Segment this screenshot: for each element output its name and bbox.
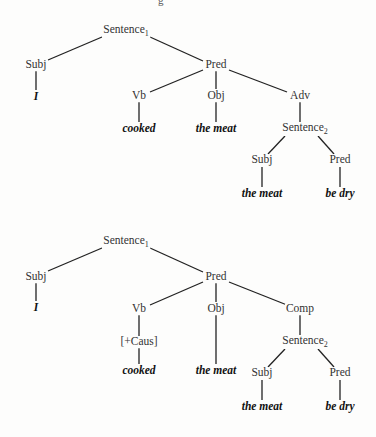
node-label: cooked	[122, 122, 155, 134]
tree-2-node-pred: Pred	[204, 271, 227, 283]
tree-1-node-pred2: Pred	[328, 154, 351, 166]
node-label: Obj	[207, 302, 224, 314]
node-label: Vb	[132, 302, 146, 314]
node-subscript: 1	[145, 29, 149, 38]
tree-1-node-meat1: the meat	[195, 123, 238, 135]
tree-1-node-i: I	[33, 91, 39, 103]
tree-2-node-bedry: be dry	[324, 401, 355, 413]
node-label: the meat	[242, 400, 283, 412]
tree-2-node-s2: Sentence2	[281, 335, 329, 349]
node-label: the meat	[242, 187, 283, 199]
tree-1-node-obj: Obj	[206, 90, 225, 102]
node-label: Subj	[25, 270, 46, 282]
tree-1-node-adv: Adv	[289, 90, 311, 102]
syntax-tree-figure: g Sentence1SubjIPredVbObjAdvcookedthe me…	[0, 0, 376, 437]
node-label: Sentence	[282, 121, 324, 133]
tree-1-node-s1: Sentence1	[102, 24, 150, 38]
tree-2-node-cooked: cooked	[121, 365, 156, 377]
node-label: Pred	[329, 153, 350, 165]
tree-2-node-subj2: Subj	[250, 367, 273, 379]
tree-2-node-subj: Subj	[24, 271, 47, 283]
tree-1-node-subj: Subj	[24, 59, 47, 71]
node-label: the meat	[196, 122, 237, 134]
tree-1-node-subj2: Subj	[250, 154, 273, 166]
node-label: Pred	[205, 270, 226, 282]
tree-1-node-pred: Pred	[204, 59, 227, 71]
node-label: I	[34, 90, 38, 102]
tree-2-node-pred2: Pred	[328, 367, 351, 379]
tree-1-node-s2: Sentence2	[281, 122, 329, 136]
node-label: Sentence	[282, 334, 324, 346]
tree-2-node-obj: Obj	[206, 303, 225, 315]
tree-edges	[0, 0, 376, 437]
tree-1-node-meat2: the meat	[241, 188, 284, 200]
node-label: Pred	[329, 366, 350, 378]
tree-2-node-meat1: the meat	[195, 365, 238, 377]
tree-2-node-i: I	[33, 302, 39, 314]
node-label: cooked	[122, 364, 155, 376]
node-label: be dry	[325, 400, 354, 412]
node-label: the meat	[196, 364, 237, 376]
node-label: Sentence	[103, 23, 145, 35]
tree-2-node-comp: Comp	[285, 303, 315, 315]
node-label: Subj	[251, 153, 272, 165]
node-label: [+Caus]	[120, 335, 157, 347]
tree-1-node-cooked: cooked	[121, 123, 156, 135]
node-label: Pred	[205, 58, 226, 70]
node-label: Sentence	[103, 234, 145, 246]
node-subscript: 2	[324, 340, 328, 349]
node-subscript: 2	[324, 127, 328, 136]
node-label: Obj	[207, 89, 224, 101]
node-label: be dry	[325, 187, 354, 199]
node-label: I	[34, 301, 38, 313]
tree-2-node-meat2: the meat	[241, 401, 284, 413]
node-label: Subj	[251, 366, 272, 378]
tree-2-node-s1: Sentence1	[102, 235, 150, 249]
tree-2-node-caus: [+Caus]	[119, 336, 158, 348]
node-label: Subj	[25, 58, 46, 70]
node-label: Adv	[290, 89, 310, 101]
tree-1-node-bedry: be dry	[324, 188, 355, 200]
node-subscript: 1	[145, 240, 149, 249]
tree-2-node-vb: Vb	[131, 303, 147, 315]
node-label: Comp	[286, 302, 314, 314]
node-label: Vb	[132, 89, 146, 101]
tree-1-node-vb: Vb	[131, 90, 147, 102]
